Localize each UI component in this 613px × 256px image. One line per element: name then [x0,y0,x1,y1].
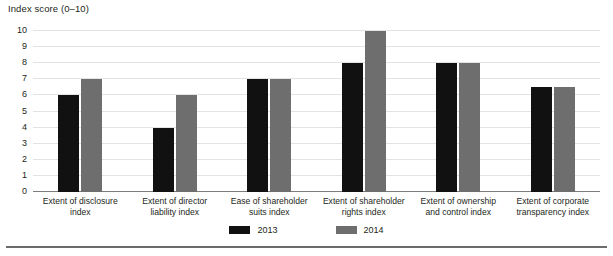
x-axis-category-label: Extent of corporatetransparency index [506,196,601,217]
y-axis-tick-label: 4 [22,122,27,131]
bar [459,63,480,192]
bar-group [247,31,291,192]
legend-label: 2014 [364,225,384,235]
y-axis-tick-label: 5 [22,106,27,115]
legend-label: 2013 [257,225,277,235]
legend-swatch-icon [229,226,250,234]
bar [247,79,268,192]
x-axis-category-label: Extent of disclosureindex [33,196,128,217]
bar [554,87,575,192]
bar [342,63,363,192]
bar [58,95,79,192]
bar [176,95,197,192]
x-axis-category-label: Extent of directorliability index [128,196,223,217]
bar-chart-figure: Index score (0–10) 012345678910 Extent o… [0,0,613,256]
legend-item[interactable]: 2013 [229,225,277,235]
x-axis-category-labels: Extent of disclosureindexExtent of direc… [33,196,600,224]
bar [270,79,291,192]
plot-area: 012345678910 [33,31,600,192]
x-axis-category-label: Extent of shareholderrights index [317,196,412,217]
bar [365,31,386,192]
bars-layer [33,31,600,192]
bottom-divider [6,246,607,248]
y-axis-tick-label: 0 [22,186,27,195]
chart-legend: 20132014 [0,225,613,235]
y-axis-tick-label: 3 [22,138,27,147]
y-axis-tick-label: 1 [22,170,27,179]
legend-swatch-icon [336,226,357,234]
y-axis-tick-label: 10 [17,26,27,35]
legend-item[interactable]: 2014 [336,225,384,235]
y-axis-tick-label: 8 [22,58,27,67]
bar-group [153,31,197,192]
bar [531,87,552,192]
bar [436,63,457,192]
x-axis-category-label: Extent of ownershipand control index [411,196,506,217]
y-axis-tick-label: 2 [22,154,27,163]
bar-group [58,31,102,192]
bar-group [436,31,480,192]
bar [153,128,174,192]
bar-group [342,31,386,192]
y-axis-tick-label: 6 [22,90,27,99]
y-axis-tick-label: 9 [22,42,27,51]
bar [81,79,102,192]
y-axis-tick-label: 7 [22,74,27,83]
y-axis-title: Index score (0–10) [8,3,89,14]
bar-group [531,31,575,192]
x-axis-category-label: Ease of shareholdersuits index [222,196,317,217]
